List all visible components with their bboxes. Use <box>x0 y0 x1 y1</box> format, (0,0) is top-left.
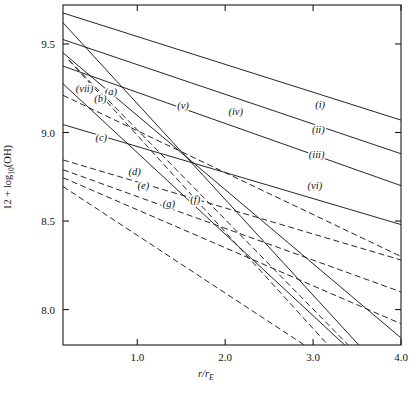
series-line-e <box>63 170 401 292</box>
series-label-iii: (iii) <box>309 149 325 161</box>
series-label-vi: (vi) <box>308 180 323 192</box>
series-line-iii <box>63 66 401 186</box>
series-label-iv: (iv) <box>228 106 243 118</box>
series-label-f: (f) <box>190 194 200 206</box>
series-label-g: (g) <box>163 198 176 210</box>
y-tick-label: 9.0 <box>41 127 55 139</box>
chart-plot: 8.08.59.09.51.02.03.04.0(i)(i)(ii)(ii)(i… <box>0 0 411 394</box>
series-line-a <box>69 60 349 345</box>
series-line-g <box>63 187 304 345</box>
series-label-c: (c) <box>95 132 107 144</box>
series-label-d: (d) <box>129 166 142 178</box>
x-axis-label: r/rE <box>198 368 214 382</box>
series-line-c <box>63 95 401 256</box>
series-label-vii: (vii) <box>76 83 94 95</box>
series-line-i <box>63 13 401 120</box>
y-tick-label: 9.5 <box>41 38 55 50</box>
x-tick-label: 1.0 <box>130 351 144 363</box>
y-axis-label: 12 + log10(OH) <box>2 145 16 210</box>
x-tick-label: 2.0 <box>218 351 232 363</box>
y-tick-label: 8.5 <box>41 215 55 227</box>
series-label-a: (a) <box>105 86 118 98</box>
x-tick-label: 3.0 <box>306 351 320 363</box>
series-label-v: (v) <box>177 100 189 112</box>
series-label-e: (e) <box>138 180 150 192</box>
series-label-ii: (ii) <box>312 124 325 136</box>
series-line-f <box>63 178 401 324</box>
series-label-i: (i) <box>315 99 325 111</box>
figure: 8.08.59.09.51.02.03.04.0(i)(i)(ii)(ii)(i… <box>0 0 411 394</box>
x-tick-label: 4.0 <box>394 351 408 363</box>
series-label-b: (b) <box>94 93 107 105</box>
y-tick-label: 8.0 <box>41 304 55 316</box>
